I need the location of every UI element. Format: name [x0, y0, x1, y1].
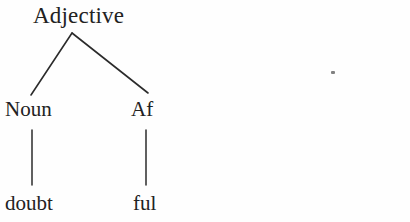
tree-node-adjective: Adjective [33, 4, 124, 27]
scan-speck-artifact [331, 71, 335, 74]
tree-leaf-ful: ful [133, 193, 156, 214]
tree-edge-group [0, 0, 410, 222]
tree-leaf-doubt: doubt [5, 193, 53, 214]
tree-node-af: Af [131, 99, 153, 120]
edge-root-to-af [72, 33, 148, 93]
edge-root-to-noun [31, 33, 72, 95]
morphological-tree-figure: Adjective Noun Af doubt ful [0, 0, 410, 222]
tree-node-noun: Noun [5, 99, 52, 120]
